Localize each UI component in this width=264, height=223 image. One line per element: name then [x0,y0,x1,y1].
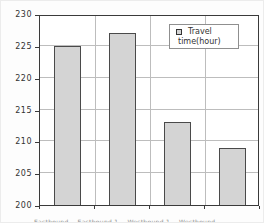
y-tick-label-215: 215 [1,106,32,116]
legend-entry: Travel [172,27,236,37]
y-tick-mark-210 [35,142,39,143]
bar-2 [109,33,136,205]
bar-4 [219,148,246,205]
x-tick-mark-4 [259,206,260,209]
x-tick-mark-1 [94,206,95,209]
y-tick-mark-205 [35,174,39,175]
y-tick-mark-220 [35,79,39,80]
y-tick-label-210: 210 [1,137,32,147]
y-tick-mark-225 [35,47,39,48]
legend-label-line2: time(hour) [172,37,236,47]
x-tick-mark-2 [149,206,150,209]
gridline-v-2 [150,16,151,205]
x-category-label-4: Westbound [179,217,215,223]
x-category-label-2: Eastbound 1 [78,217,119,223]
y-tick-label-220: 220 [1,74,32,84]
bar-1 [54,46,81,205]
gridline-v-1 [95,16,96,205]
x-axis-category-labels: EastboundEastbound 1Westbound 1Westbound [34,217,215,223]
x-category-label-3: Westbound 1 [127,217,170,223]
legend-label-line1: Travel [188,27,212,37]
y-tick-label-225: 225 [1,42,32,52]
bar-chart: 200205210215220225230 Travel time(hour) … [0,0,264,223]
y-tick-label-230: 230 [1,10,32,20]
y-tick-label-205: 205 [1,169,32,179]
y-tick-mark-230 [35,15,39,16]
y-tick-mark-215 [35,111,39,112]
x-tick-mark-0 [39,206,40,209]
bar-3 [164,122,191,205]
legend: Travel time(hour) [169,24,239,49]
x-category-label-1: Eastbound [34,217,69,223]
x-tick-mark-3 [204,206,205,209]
legend-square-marker-icon [176,29,182,35]
y-tick-label-200: 200 [1,201,32,211]
